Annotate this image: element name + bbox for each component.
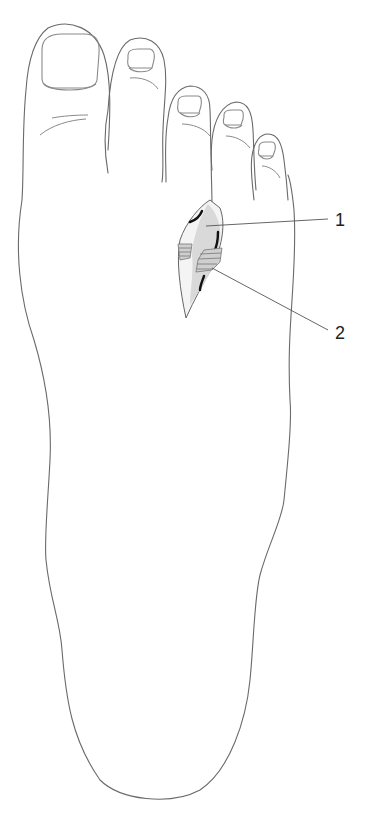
leader-line-1: [206, 219, 328, 226]
leader-line-2: [212, 268, 328, 330]
callout-label-2: 2: [335, 323, 345, 343]
second-toe: [105, 38, 166, 182]
foot-diagram: 1 2: [0, 0, 368, 816]
fifth-toe: [251, 134, 288, 200]
third-toe: [166, 86, 213, 182]
fourth-toe: [211, 102, 256, 208]
big-toe-crease: [52, 115, 88, 118]
big-toe-nail: [42, 34, 99, 88]
callout-label-1: 1: [335, 210, 345, 230]
big-toe: [40, 34, 99, 135]
incision-site: [178, 200, 223, 318]
